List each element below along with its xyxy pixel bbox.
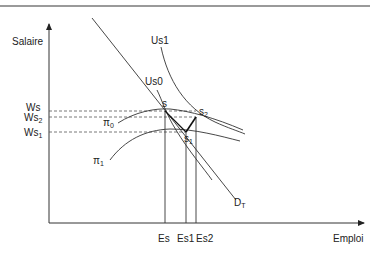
us1-label: Us1 (151, 36, 169, 46)
point-s2-label: s2 (199, 107, 208, 118)
demand-label: DT (234, 198, 246, 209)
employment-label-es: Es (158, 234, 170, 244)
wage-label-ws1: Ws1 (24, 128, 42, 139)
diagram-canvas (0, 0, 382, 255)
pi0-label: π0 (103, 118, 114, 129)
employment-label-es1: Es1 (177, 234, 194, 244)
us0-label: Us0 (145, 77, 163, 87)
wage-label-ws2: Ws2 (24, 113, 42, 124)
x-axis-label: Emploi (333, 234, 364, 244)
s1-s2-segment (186, 117, 196, 132)
point-s1-label: s1 (184, 134, 193, 145)
pi1-curve (110, 129, 240, 160)
pi1-label: π1 (93, 156, 104, 167)
point-s-label: s (162, 99, 167, 109)
employment-label-es2: Es2 (196, 234, 213, 244)
y-axis-label: Salaire (12, 37, 43, 47)
